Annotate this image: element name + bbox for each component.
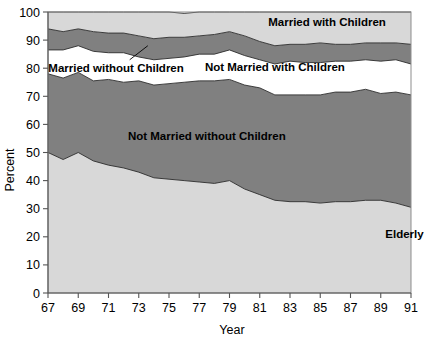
y-axis-title: Percent bbox=[3, 148, 17, 192]
series-label-elderly: Elderly bbox=[385, 228, 424, 240]
x-tick-label: 91 bbox=[404, 301, 418, 315]
x-tick-label: 75 bbox=[162, 301, 176, 315]
x-tick-label: 77 bbox=[192, 301, 206, 315]
y-tick-label: 0 bbox=[33, 287, 40, 301]
x-tick-label: 67 bbox=[41, 301, 55, 315]
x-tick-label: 69 bbox=[71, 301, 85, 315]
stacked-area-chart: 0102030405060708090100 67697173757779818… bbox=[0, 0, 424, 340]
y-tick-label: 30 bbox=[26, 202, 40, 216]
y-tick-label: 70 bbox=[26, 90, 40, 104]
y-tick-label: 90 bbox=[26, 34, 40, 48]
x-tick-label: 73 bbox=[132, 301, 146, 315]
y-axis: 0102030405060708090100 bbox=[19, 6, 48, 301]
series-label-married-without-children: Married without Children bbox=[48, 62, 183, 74]
y-tick-label: 20 bbox=[26, 230, 40, 244]
x-tick-label: 85 bbox=[313, 301, 327, 315]
chart-container: 0102030405060708090100 67697173757779818… bbox=[0, 0, 424, 340]
x-tick-label: 79 bbox=[223, 301, 237, 315]
x-tick-label: 89 bbox=[374, 301, 388, 315]
x-tick-label: 83 bbox=[283, 301, 297, 315]
y-tick-label: 40 bbox=[26, 174, 40, 188]
y-tick-label: 80 bbox=[26, 62, 40, 76]
y-tick-label: 100 bbox=[19, 6, 40, 20]
plot-areas-group bbox=[48, 12, 411, 293]
y-tick-label: 60 bbox=[26, 118, 40, 132]
x-axis: 67697173757779818385878991 bbox=[41, 293, 418, 315]
x-tick-label: 81 bbox=[253, 301, 267, 315]
x-axis-title: Year bbox=[219, 323, 244, 337]
y-tick-label: 50 bbox=[26, 146, 40, 160]
series-label-not-married-without-children: Not Married without Children bbox=[128, 130, 286, 142]
x-tick-label: 87 bbox=[344, 301, 358, 315]
x-tick-label: 71 bbox=[102, 301, 116, 315]
series-label-married-with-children: Married with Children bbox=[268, 16, 386, 28]
series-label-not-married-with-children: Not Married with Children bbox=[205, 61, 345, 73]
y-tick-label: 10 bbox=[26, 258, 40, 272]
